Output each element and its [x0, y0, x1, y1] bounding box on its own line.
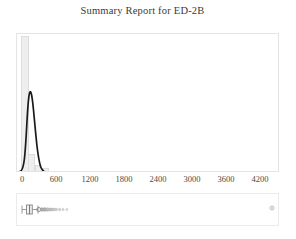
histogram-bar: [21, 36, 29, 171]
boxplot-outlier: [66, 208, 68, 210]
normal-fit-curve: [17, 34, 279, 172]
histogram-plot-area: [17, 34, 278, 171]
boxplot-outlier: [62, 208, 64, 210]
boxplot-outlier-far: [270, 206, 274, 210]
histogram-bar: [42, 168, 49, 171]
histogram-bar: [28, 154, 35, 171]
x-tick-label: 600: [50, 174, 63, 184]
x-tick-label: 3600: [218, 174, 235, 184]
summary-report-figure: Summary Report for ED-2B 0 600 1200 1800…: [0, 0, 296, 239]
page-title: Summary Report for ED-2B: [0, 4, 285, 17]
x-tick-label: 1200: [82, 174, 99, 184]
histogram-bar: [35, 165, 42, 171]
boxplot: [17, 194, 278, 225]
x-tick-label: 2400: [150, 174, 167, 184]
boxplot-outlier: [58, 208, 60, 210]
boxplot-outlier: [55, 208, 57, 210]
x-tick-label: 3000: [184, 174, 201, 184]
x-tick-label: 4200: [252, 174, 269, 184]
histogram-panel: [16, 33, 279, 172]
x-tick-label: 0: [20, 174, 24, 184]
x-tick-label: 1800: [116, 174, 133, 184]
boxplot-panel: [16, 193, 279, 226]
x-axis: 0 600 1200 1800 2400 3000 3600 4200: [16, 172, 279, 188]
